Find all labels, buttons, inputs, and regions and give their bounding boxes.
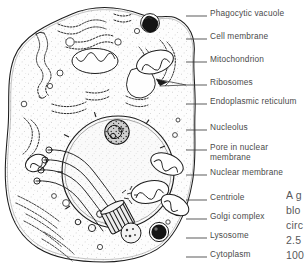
caption-line-5: 100 xyxy=(286,250,308,262)
label-cytoplasm: Cytoplasm xyxy=(210,250,251,260)
lysosome xyxy=(149,222,168,241)
secondary-vesicle xyxy=(121,223,141,243)
label-lysosome: Lysosome xyxy=(210,231,249,241)
label-cell-membrane: Cell membrane xyxy=(210,32,268,42)
nucleolus xyxy=(105,120,129,144)
label-centriole: Centriole xyxy=(210,193,245,203)
phagocytic-vacuole xyxy=(141,14,160,33)
label-pore-in-nuclear-membrane: Pore in nuclear membrane xyxy=(210,143,302,162)
label-endoplasmic-reticulum: Endoplasmic reticulum xyxy=(210,97,302,107)
label-nucleolus: Nucleolus xyxy=(210,123,248,133)
label-phagocytic-vacuole: Phagocytic vacuole xyxy=(210,9,284,19)
label-golgi-complex: Golgi complex xyxy=(210,212,265,222)
caption-line-2: blo xyxy=(286,205,308,217)
label-nuclear-membrane: Nuclear membrane xyxy=(210,168,302,178)
label-ribosomes: Ribosomes xyxy=(210,78,253,88)
label-mitochondrion: Mitochondrion xyxy=(210,55,264,65)
mitochondrion xyxy=(72,49,118,74)
caption-line-4: 2.5 xyxy=(286,235,308,247)
caption-line-3: circ xyxy=(286,220,308,232)
caption-line-1: A g xyxy=(286,190,308,202)
cell-diagram-figure: Phagocytic vacuoleCell membraneMitochond… xyxy=(0,0,308,265)
